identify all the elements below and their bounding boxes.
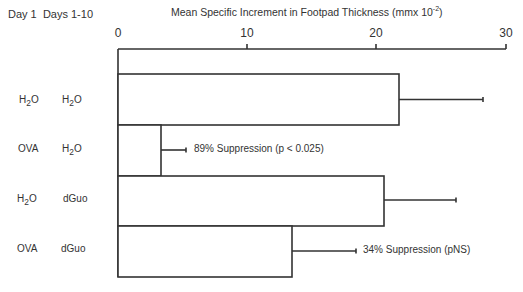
bar-h2o-h2o — [118, 74, 399, 125]
annotation-89-suppression: 89% Suppression (p < 0.025) — [194, 143, 324, 154]
row-label-2-col1: OVA — [18, 143, 38, 157]
row-label-4-col1: OVA — [17, 243, 37, 257]
row-label-2-col2: H2O — [62, 143, 82, 157]
row-label-3-col2: dGuo — [63, 193, 87, 207]
row-label-3-col1: H2O — [17, 193, 37, 207]
row-label-1-col2: H2O — [62, 94, 82, 108]
row-label-4-col2: dGuo — [61, 243, 85, 257]
annotation-34-suppression: 34% Suppression (pNS) — [363, 244, 470, 255]
bar-h2o-dguo — [118, 176, 384, 226]
bar-ova-h2o — [118, 125, 161, 176]
row-label-1-col1: H2O — [19, 94, 39, 108]
bar-ova-dguo — [118, 226, 292, 277]
